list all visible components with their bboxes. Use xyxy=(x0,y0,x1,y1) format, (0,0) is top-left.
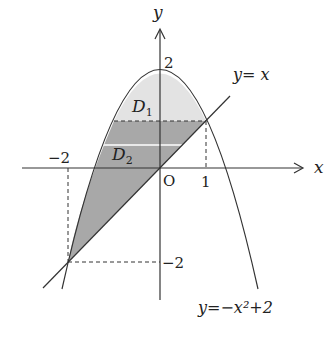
tick-y-neg2: −2 xyxy=(162,254,184,272)
line-label: y= x xyxy=(232,65,270,84)
x-axis-label: x xyxy=(314,157,324,177)
origin-label: O xyxy=(163,172,175,190)
y-axis-label: y xyxy=(152,2,163,22)
tick-x-neg2: −2 xyxy=(48,149,70,167)
tick-y-2: 2 xyxy=(164,54,174,72)
diagram: y x O 2 1 −2 −2 y= x y=−x²+2 D1 D2 xyxy=(0,0,334,364)
tick-x-1: 1 xyxy=(201,173,211,191)
parabola-label: y=−x²+2 xyxy=(197,298,273,317)
